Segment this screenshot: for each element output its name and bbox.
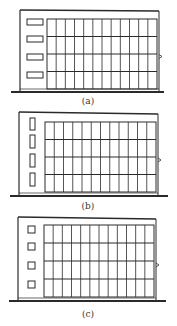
window-vertical-slot	[30, 118, 35, 130]
window-horizontal-slot	[27, 36, 43, 42]
window-horizontal-slot	[27, 19, 43, 25]
figure-c-label: (c)	[82, 309, 94, 319]
window-square	[28, 243, 35, 250]
figure-a-label: (a)	[82, 96, 94, 106]
window-square	[28, 262, 35, 269]
roof-line	[20, 10, 159, 11]
roof-line	[18, 217, 156, 219]
figure-b-label: (b)	[82, 201, 95, 211]
window-horizontal-slot	[27, 54, 43, 60]
window-vertical-slot	[30, 173, 35, 186]
figure-c	[9, 217, 166, 301]
window-square	[28, 281, 35, 288]
roof-line	[19, 112, 158, 114]
figure-b	[10, 112, 168, 196]
window-square	[28, 226, 35, 233]
building-elevation-diagram: (a) (b) (c)	[0, 0, 177, 326]
window-vertical-slot	[30, 135, 35, 148]
window-vertical-slot	[30, 154, 35, 167]
window-horizontal-slot	[27, 72, 43, 78]
figure-a	[11, 10, 164, 92]
